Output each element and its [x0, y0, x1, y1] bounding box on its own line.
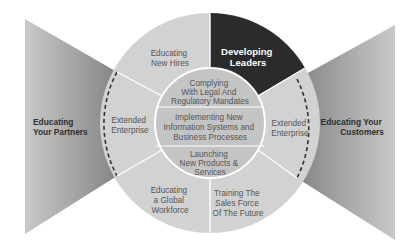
label-implementing: Implementing New Information Systems and…	[164, 113, 257, 142]
training-diagram: Educating New Hires Developing Leaders E…	[0, 0, 412, 252]
label-educating-global-workforce: Educating a Global Workforce	[151, 186, 190, 215]
label-educating-new-hires: Educating New Hires	[151, 49, 190, 68]
label-extended-enterprise-right: Extended Enterprise	[271, 119, 309, 138]
label-extended-enterprise-left: Extended Enterprise	[111, 116, 149, 135]
label-training-sales-force: Training The Sales Force Of The Future	[213, 189, 264, 218]
